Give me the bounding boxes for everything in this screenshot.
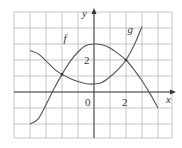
x-tick-2-label: 2 [122, 96, 128, 108]
label-g: g [128, 23, 134, 35]
origin-label: 0 [85, 96, 91, 108]
chart-canvas: f g y x 0 2 2 [0, 0, 182, 148]
intersection-point-1 [61, 73, 64, 76]
y-axis-label: y [81, 7, 87, 19]
intersection-point-2 [125, 59, 128, 62]
x-axis-label: x [165, 93, 171, 105]
x-axis-arrow-icon [170, 90, 176, 95]
label-f: f [64, 32, 69, 44]
y-axis-arrow-icon [92, 8, 97, 14]
y-tick-2-label: 2 [84, 54, 90, 66]
